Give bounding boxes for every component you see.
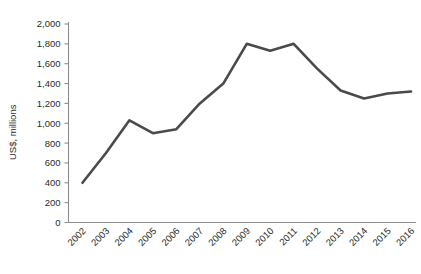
- y-axis-title-group: US$, millions: [7, 104, 18, 160]
- y-axis-tick-label: 800: [45, 138, 61, 149]
- y-axis-tick-label: 1,600: [37, 58, 61, 69]
- y-axis-tick-label: 0: [55, 217, 60, 228]
- y-axis-tick-label: 600: [45, 157, 61, 168]
- y-axis-tick-label: 1,800: [37, 38, 61, 49]
- y-axis-tick-label: 1,000: [37, 118, 61, 129]
- chart-canvas: 02004006008001,0001,2001,4001,6001,8002,…: [0, 0, 421, 274]
- y-axis-tick-label: 2,000: [37, 18, 61, 29]
- y-axis-tick-label: 400: [45, 177, 61, 188]
- y-axis-title: US$, millions: [7, 104, 18, 160]
- line-chart: 02004006008001,0001,2001,4001,6001,8002,…: [0, 0, 421, 274]
- y-axis-tick-label: 1,400: [37, 78, 61, 89]
- y-axis-tick-label: 200: [45, 197, 61, 208]
- y-axis-tick-label: 1,200: [37, 98, 61, 109]
